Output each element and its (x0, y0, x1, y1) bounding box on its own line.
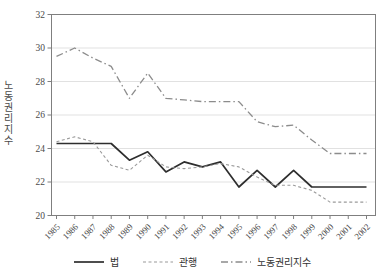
y-axis-title-char: 수 (4, 135, 13, 146)
x-tick-label-2000: 2000 (316, 221, 336, 241)
legend-label-law: 법 (110, 254, 119, 269)
legend-sample-practice-icon (143, 257, 173, 267)
x-tick-label-1987: 1987 (79, 221, 99, 241)
x-tick-label-1991: 1991 (152, 222, 172, 242)
legend-item-practice: 관행 (143, 254, 197, 269)
x-tick-label-1989: 1989 (115, 221, 135, 241)
y-axis-title-char: 동 (4, 91, 13, 102)
y-tick-label-32: 32 (36, 10, 46, 20)
x-tick-label-1993: 1993 (188, 221, 208, 241)
x-tick-label-2001: 2001 (334, 222, 354, 242)
x-tick-label-1997: 1997 (261, 221, 281, 241)
legend-item-index: 노동권리지수 (221, 254, 311, 269)
plot-area: 2022242628303219851986198719881989199019… (0, 0, 384, 276)
x-tick-label-2002: 2002 (352, 222, 372, 242)
y-axis-title-char: 리 (4, 113, 13, 124)
y-tick-label-24: 24 (36, 144, 46, 154)
series-line-index (57, 48, 367, 154)
series-line-practice (57, 137, 367, 202)
y-axis-title-char: 지 (4, 124, 13, 135)
x-tick-label-1986: 1986 (61, 221, 81, 241)
x-tick-label-1999: 1999 (298, 221, 318, 241)
x-tick-label-1990: 1990 (134, 221, 154, 241)
legend-label-index: 노동권리지수 (257, 254, 311, 269)
x-tick-label-1996: 1996 (243, 221, 263, 241)
line-chart-figure: 2022242628303219851986198719881989199019… (0, 0, 384, 276)
x-tick-label-1994: 1994 (207, 221, 227, 241)
chart-legend: 법관행노동권리지수 (0, 254, 384, 269)
legend-sample-law-icon (74, 257, 104, 267)
x-tick-label-1998: 1998 (279, 221, 299, 241)
y-axis-title-char: 권 (4, 102, 13, 113)
x-tick-label-1995: 1995 (225, 221, 245, 241)
y-tick-label-26: 26 (36, 110, 46, 120)
legend-item-law: 법 (74, 254, 119, 269)
legend-sample-index-icon (221, 257, 251, 267)
y-axis-title-char: 노 (4, 80, 13, 91)
x-tick-label-1992: 1992 (170, 222, 190, 242)
x-tick-label-1988: 1988 (97, 221, 117, 241)
x-tick-label-1985: 1985 (42, 221, 62, 241)
legend-label-practice: 관행 (179, 254, 197, 269)
y-axis-title: 노동권리지수 (4, 80, 13, 146)
y-tick-label-30: 30 (36, 43, 46, 53)
y-tick-label-22: 22 (36, 177, 46, 187)
y-tick-label-20: 20 (36, 211, 46, 221)
y-tick-label-28: 28 (36, 77, 46, 87)
